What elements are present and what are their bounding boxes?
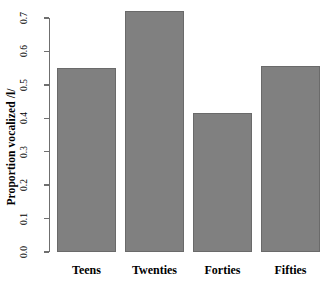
y-tick-mark [44,151,49,152]
bar [193,113,252,252]
y-tick-label: 0.6 [18,36,30,66]
bar [57,68,116,252]
y-tick-label: 0.2 [18,170,30,200]
y-tick-mark [44,218,49,219]
plot-area [50,0,331,252]
y-tick-mark [44,184,49,185]
y-tick-label: 0.1 [18,204,30,234]
bar-chart: Proportion vocalized /l/ 0.00.10.20.30.4… [0,0,331,294]
y-tick-label: 0.5 [18,70,30,100]
bar [261,66,320,252]
y-tick-label: 0.3 [18,137,30,167]
y-tick-mark [44,84,49,85]
bar [125,11,184,252]
y-tick-mark [44,51,49,52]
x-category-label: Fifties [251,262,330,278]
y-tick-mark [44,118,49,119]
y-tick-label: 0.7 [18,3,30,33]
y-tick-label: 0.0 [18,237,30,267]
y-tick-mark [44,251,49,252]
y-tick-mark [44,17,49,18]
y-tick-label: 0.4 [18,103,30,133]
